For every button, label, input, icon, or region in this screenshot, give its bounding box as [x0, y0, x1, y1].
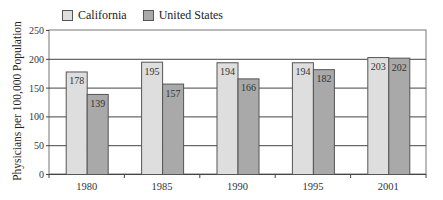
bar-value-label: 203: [371, 61, 386, 72]
y-tick-label: 250: [29, 25, 44, 36]
x-tick-label: 1985: [152, 181, 173, 192]
bar-value-label: 195: [145, 66, 160, 77]
bar-chart: 0501001502002501781391980195157198519416…: [0, 0, 443, 200]
bar-california-1995: [292, 63, 313, 175]
bar-california-1990: [217, 63, 238, 175]
x-tick-label: 1995: [302, 181, 323, 192]
bar-value-label: 182: [316, 73, 331, 84]
bar-value-label: 194: [220, 66, 235, 77]
y-tick-label: 150: [29, 83, 44, 94]
bar-value-label: 166: [241, 82, 256, 93]
y-tick-label: 50: [34, 140, 44, 151]
x-tick-label: 2001: [378, 181, 399, 192]
bar-value-label: 202: [392, 62, 407, 73]
bar-united-states-1995: [313, 70, 334, 175]
bar-value-label: 178: [69, 75, 84, 86]
x-tick-label: 1990: [227, 181, 248, 192]
bar-value-label: 157: [166, 88, 181, 99]
bar-value-label: 194: [295, 66, 310, 77]
bar-united-states-2001: [389, 58, 410, 174]
bar-value-label: 139: [90, 98, 105, 109]
y-tick-label: 100: [29, 111, 44, 122]
bar-california-1980: [66, 72, 87, 175]
x-tick-label: 1980: [76, 181, 97, 192]
bar-california-1985: [142, 62, 163, 174]
y-tick-label: 0: [39, 169, 44, 180]
bar-california-2001: [368, 58, 389, 175]
y-tick-label: 200: [29, 54, 44, 65]
